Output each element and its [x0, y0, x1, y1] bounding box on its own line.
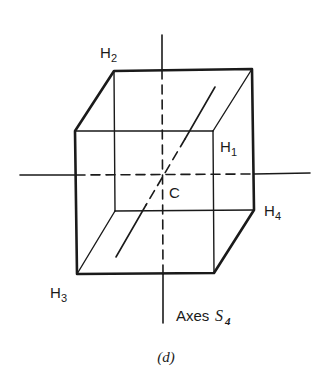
svg-text:4: 4: [224, 315, 231, 327]
svg-text:3: 3: [61, 292, 67, 304]
svg-text:2: 2: [111, 52, 117, 64]
vertex-label-h1: H 1: [220, 138, 237, 158]
svg-text:H: H: [220, 138, 231, 155]
vertex-label-h3: H 3: [50, 284, 67, 304]
diagonal-axis: [116, 87, 215, 257]
vertex-label-h2: H 2: [100, 44, 117, 64]
svg-text:1: 1: [231, 146, 237, 158]
cube-outline: [75, 69, 254, 274]
svg-text:4: 4: [275, 210, 281, 222]
cube-inner-edges: [75, 69, 254, 274]
svg-text:H: H: [264, 202, 275, 219]
svg-text:H: H: [100, 44, 111, 61]
axes-label: Axes S 4: [176, 307, 231, 327]
svg-text:S: S: [215, 307, 223, 324]
svg-text:H: H: [50, 284, 61, 301]
figure-caption: (d): [157, 349, 175, 366]
cube-symmetry-diagram: H 2 H 1 H 4 H 3 C Axes S 4 (d): [0, 0, 332, 387]
svg-text:Axes: Axes: [176, 307, 209, 324]
center-label: C: [169, 184, 180, 201]
vertex-label-h4: H 4: [264, 202, 281, 222]
